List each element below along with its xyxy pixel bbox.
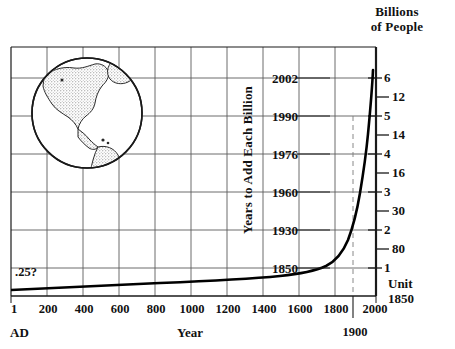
billions-tick-1: 1 [384, 261, 406, 274]
billions-tick-5: 5 [384, 109, 406, 122]
right-axis-title: Years to Add Each Billion [240, 60, 260, 260]
x-tick-1200: 1200 [208, 303, 248, 316]
interval-tick-16: 16 [392, 166, 422, 179]
x-tick-1900: 1900 [330, 325, 380, 340]
billions-tick-6: 6 [384, 71, 406, 84]
callout-1960: 1960 [258, 186, 298, 199]
interval-tick-80: 80 [392, 242, 422, 255]
interval-tick-14: 14 [392, 128, 422, 141]
x-tick-800: 800 [138, 303, 174, 316]
x-axis-title: Year [150, 325, 230, 341]
interval-tick-12: 12 [392, 90, 422, 103]
x-tick-400: 400 [66, 303, 102, 316]
callout-1850: 1850 [258, 262, 298, 275]
x-tick-1400: 1400 [244, 303, 284, 316]
x-axis-era-label: AD [10, 325, 29, 341]
annotation-start-population: .25? [15, 265, 37, 280]
x-tick-1: 1 [4, 303, 24, 316]
callout-1976: 1976 [258, 148, 298, 161]
callout-1990: 1990 [258, 110, 298, 123]
interval-tick-30: 30 [392, 204, 422, 217]
x-tick-600: 600 [102, 303, 138, 316]
x-tick-1000: 1000 [172, 303, 212, 316]
x-tick-200: 200 [30, 303, 66, 316]
x-tick-1600: 1600 [280, 303, 320, 316]
x-tick-2000: 2000 [355, 303, 395, 316]
billions-tick-2: 2 [384, 223, 406, 236]
callout-2002: 2002 [258, 72, 298, 85]
callout-1930: 1930 [258, 224, 298, 237]
plot-canvas [0, 0, 455, 349]
population-growth-chart: Billions of People [0, 0, 455, 349]
billions-tick-3: 3 [384, 185, 406, 198]
billions-tick-4: 4 [384, 147, 406, 160]
unit-note-label: Unit [388, 277, 413, 291]
x-tick-1800: 1800 [316, 303, 356, 316]
